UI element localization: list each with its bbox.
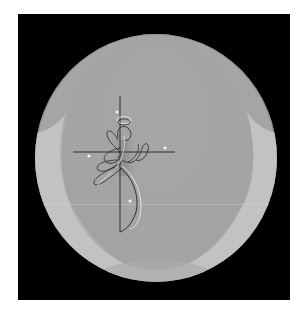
sparkle-dot	[115, 110, 118, 113]
calligraphic-cross-design	[0, 0, 307, 316]
crescent-dark	[120, 168, 137, 232]
sparkle-dot	[128, 199, 131, 202]
sparkle-dot	[163, 146, 166, 149]
sparkle-dot	[87, 154, 90, 157]
